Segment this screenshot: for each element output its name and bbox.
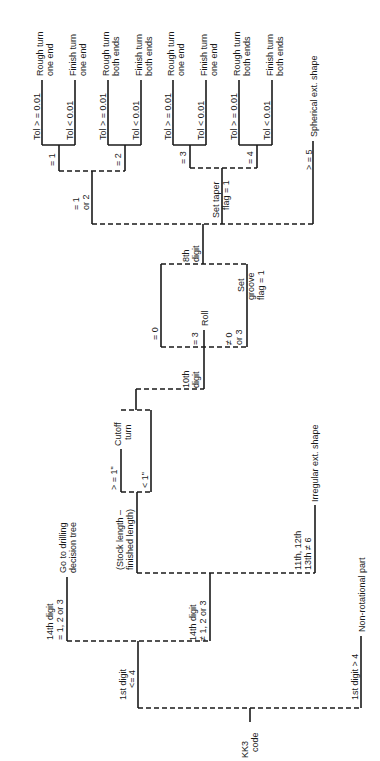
first-digit-gt4-label: 1st digit > 4 [350,654,360,700]
branch-3-tol-lt: Tol < 0.01 [196,101,206,140]
cutoff-lt1-label: < 1" [140,472,150,488]
branch-2-tol-ge: Tol > = 0.01 [98,93,108,140]
branch-cutoff: > = 1" Cutoff turn [109,422,133,492]
fourteenth-ne-label-1: 14th digit [188,604,198,641]
branch-cutoff-lt1: < 1" [140,410,151,492]
branch-1-tol-lt: Tol < 0.01 [65,101,75,140]
branch-2-ge-outcome-2: both ends [111,36,121,76]
branch-1-ge-outcome-2: one end [45,43,55,76]
groove-label-1: Set [236,278,246,292]
roll-outcome: Roll [200,310,210,326]
taper-label-2: flag = 1 [221,180,231,210]
tenth-digit-label-1: 10th [181,370,191,388]
tenth-digit-label-2: digit [191,371,201,388]
eighth-eq12-label-2: or 2 [81,194,91,210]
branch-2-lt-outcome-1: Finish turn [134,34,144,76]
branch-fourteenth-ne: 14th digit ≠ 1, 2 or 3 [188,573,210,641]
spherical-outcome: Spherical ext. shape [309,55,319,137]
eighth-digit-label-2: digit [191,245,201,262]
branch-4: = 4 Tol > = 0.01 Tol < 0.01 Rough turn b… [229,31,285,168]
branch-4-ge-outcome-1: Rough turn [232,31,242,76]
branch-stock-length: (Stock length – finished length) [115,492,137,573]
tenth-digit-node: 10th digit [181,347,204,389]
root-node: KK3 code [240,708,260,758]
branch-1: = 1 Tol > = 0.01 Tol < 0.01 Rough turn o… [32,31,88,171]
branch-non-rotational: 1st digit > 4 Non-rotational part [350,557,367,708]
branch-first-digit-le4: 1st digit <= 4 [118,641,138,708]
drilling-outcome-1: Go to drilling [58,522,68,573]
root-label-2: code [250,732,260,752]
branch-1-lt-outcome-2: one end [78,43,88,76]
branch-1-cond: = 1 [47,153,57,166]
branch-2: = 2 Tol > = 0.01 Tol < 0.01 Rough turn b… [98,31,154,171]
branch-2-cond: = 2 [113,153,123,166]
cutoff-outcome-2: turn [123,424,133,440]
branch-2-ge-outcome-1: Rough turn [101,31,111,76]
irregular-outcome: Irregular ext. shape [310,424,320,502]
irregular-cond-1: 11th, 12th [293,531,303,570]
branch-1-tol-ge: Tol > = 0.01 [32,93,42,140]
branch-4-cond: = 4 [245,151,255,164]
branch-drilling: 14th digit = 1, 2 or 3 Go to drilling de… [45,522,78,641]
branch-4-tol-lt: Tol < 0.01 [262,101,272,140]
cutoff-ge1-label: > = 1" [109,466,119,490]
branch-1-ge-outcome-1: Rough turn [35,31,45,76]
stock-length-label-1: (Stock length – [115,510,125,570]
tenth-ne03-label-2: or 3 [234,329,244,345]
branch-4-tol-ge: Tol > = 0.01 [229,93,239,140]
branch-irregular: 11th, 12th 13th ≠ 6 Irregular ext. shape [293,424,320,573]
branch-4-lt-outcome-1: Finish turn [265,34,275,76]
branch-spherical: > = 5 Spherical ext. shape [304,55,319,224]
branch-4-ge-outcome-2: both ends [242,36,252,76]
eighth-ge5-label: > = 5 [304,149,314,170]
branch-3-ge-outcome-1: Rough turn [166,31,176,76]
eighth-eq12-label-1: = 1 [71,197,81,210]
branch-taper: Set taper flag = 1 [211,168,231,224]
groove-label-3: flag = 1 [256,270,266,300]
branch-1-lt-outcome-1: Finish turn [68,34,78,76]
branch-groove: ≠ 0 or 3 Set groove flag = 1 [224,264,266,347]
branch-2-lt-outcome-2: both ends [144,36,154,76]
irregular-cond-2: 13th ≠ 6 [303,538,313,570]
root-label-1: KK3 [240,741,250,758]
branch-tenth-eq0: = 0 [150,264,161,347]
first-digit-le4-label-2: <= 4 [127,670,137,688]
fourteenth-eq-label-2: = 1, 2 or 3 [55,599,65,640]
branch-3-lt-outcome-1: Finish turn [199,34,209,76]
decision-tree-diagram: KK3 code 1st digit > 4 Non-rotational pa… [0,0,380,761]
non-rotational-outcome: Non-rotational part [357,557,367,632]
eighth-digit-node: 8th digit [181,224,203,264]
eighth-digit-label-1: 8th [181,249,191,262]
tenth-eq3-label: = 3 [190,332,200,345]
taper-label-1: Set taper [211,181,221,218]
branch-roll: = 3 Roll [190,310,210,347]
branch-3-lt-outcome-2: one end [209,43,219,76]
cutoff-outcome-1: Cutoff [113,422,123,446]
fourteenth-ne-label-2: ≠ 1, 2 or 3 [198,601,208,641]
groove-label-2: groove [246,272,256,300]
drilling-outcome-2: decision tree [68,522,78,573]
branch-eighth-eq12: = 1 or 2 [71,171,92,224]
branch-2-tol-lt: Tol < 0.01 [131,101,141,140]
branch-3-ge-outcome-2: one end [176,43,186,76]
branch-3-tol-ge: Tol > = 0.01 [163,93,173,140]
tenth-ne03-label-1: ≠ 0 [224,333,234,345]
branch-4-lt-outcome-2: both ends [275,36,285,76]
tenth-eq0-label: = 0 [150,327,160,340]
branch-3-cond: = 3 [178,151,188,164]
branch-3: = 3 Tol > = 0.01 Tol < 0.01 Rough turn o… [163,31,219,168]
stock-length-label-2: finished length) [125,509,135,570]
fourteenth-eq-label-1: 14th digit [45,603,55,640]
